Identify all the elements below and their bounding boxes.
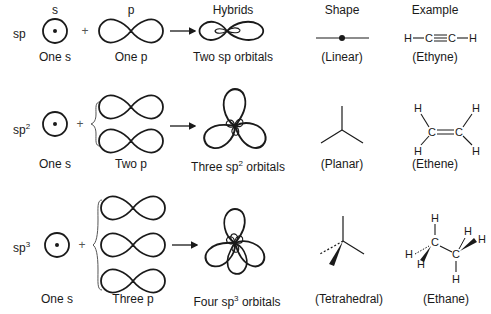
ethyne-structure: H C C H [404,32,477,44]
plus-sign: + [78,238,85,252]
svg-text:H: H [472,145,480,157]
svg-text:H: H [472,102,480,114]
svg-text:H: H [414,102,422,114]
s-orbital-icon [43,112,67,136]
s-orbital-icon [45,233,69,257]
sp2-hybrid-orbitals-icon [200,89,270,153]
p-orbital-icon [99,129,163,152]
svg-text:H: H [431,212,439,224]
svg-text:C: C [448,32,456,44]
p-orbital-icon [101,196,165,219]
sp-hybrid-orbitals-icon [200,22,264,40]
s-orbital-icon [43,19,67,43]
planar-shape-icon [321,106,363,143]
p-orbital-icon [101,233,165,256]
svg-text:C: C [455,126,463,138]
svg-text:C: C [431,236,439,248]
sp3-hybrid-orbitals-icon [202,209,269,275]
p-orbital-icon [99,19,163,42]
p-orbital-icon [99,95,163,118]
svg-text:C: C [452,248,460,260]
svg-text:H: H [469,32,477,44]
svg-text:H: H [417,258,425,270]
linear-shape-icon [316,35,369,41]
ethane-structure: H C H H C H H H [405,212,486,285]
svg-text:H: H [414,145,422,157]
svg-text:H: H [478,233,486,245]
tetrahedral-shape-icon [320,216,364,266]
plus-sign: + [76,117,83,131]
svg-text:C: C [425,32,433,44]
svg-text:H: H [464,225,472,237]
ethene-structure: H H H H C C [414,102,480,157]
orbital-diagram: + H C C H + [0,0,491,314]
p-orbital-icon [101,269,165,292]
svg-text:H: H [452,273,460,285]
svg-text:H: H [405,248,413,260]
svg-text:H: H [404,32,412,44]
plus-sign: + [81,24,88,38]
